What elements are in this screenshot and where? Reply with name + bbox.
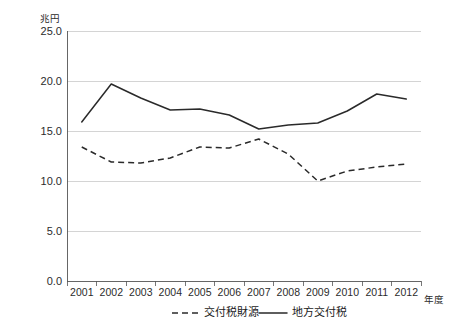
series-line-koufuzei-zaigen bbox=[82, 139, 407, 181]
y-tick-label-15: 15.0 bbox=[41, 125, 62, 137]
x-tick-label-2002: 2002 bbox=[100, 286, 124, 298]
x-tick-label-2006: 2006 bbox=[218, 286, 242, 298]
x-tick-label-2012: 2012 bbox=[395, 286, 419, 298]
chart-legend: 交付税財源 地方交付税 bbox=[172, 305, 347, 318]
x-tick-label-2001: 2001 bbox=[70, 286, 94, 298]
y-tick-labels: 25.0 20.0 15.0 10.0 5.0 0.0 bbox=[41, 25, 62, 287]
y-tick-label-0: 0.0 bbox=[47, 275, 62, 287]
y-tick-label-25: 25.0 bbox=[41, 25, 62, 37]
line-chart: 兆円 25.0 20.0 15.0 10.0 5.0 0.0 2001 2002… bbox=[0, 0, 450, 329]
x-tick-label-2005: 2005 bbox=[188, 286, 212, 298]
x-tick-label-2009: 2009 bbox=[306, 286, 330, 298]
legend-label-koufuzei-zaigen: 交付税財源 bbox=[204, 305, 259, 318]
y-tick-label-5: 5.0 bbox=[47, 225, 62, 237]
y-tick-label-20: 20.0 bbox=[41, 75, 62, 87]
x-tick-label-2011: 2011 bbox=[366, 286, 389, 298]
series-line-chihou-koufuzei bbox=[82, 84, 407, 129]
y-axis-unit-label: 兆円 bbox=[40, 13, 60, 24]
chart-canvas: 兆円 25.0 20.0 15.0 10.0 5.0 0.0 2001 2002… bbox=[0, 0, 450, 329]
y-tick-label-10: 10.0 bbox=[41, 175, 62, 187]
x-tick-label-2007: 2007 bbox=[247, 286, 271, 298]
x-axis-name-label: 年度 bbox=[424, 294, 444, 305]
x-tick-label-2010: 2010 bbox=[336, 286, 360, 298]
x-tick-label-2008: 2008 bbox=[277, 286, 301, 298]
gridlines bbox=[67, 31, 421, 231]
x-tick-label-2004: 2004 bbox=[159, 286, 183, 298]
x-tick-labels: 2001 2002 2003 2004 2005 2006 2007 2008 … bbox=[70, 286, 418, 298]
x-tick-label-2003: 2003 bbox=[129, 286, 153, 298]
legend-label-chihou-koufuzei: 地方交付税 bbox=[292, 305, 347, 318]
